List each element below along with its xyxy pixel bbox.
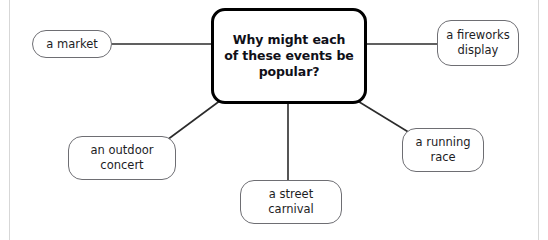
connector-central-to-running-race: [356, 100, 410, 133]
branch-node-street-carnival-label: a street carnival: [262, 187, 319, 217]
branch-node-fireworks[interactable]: a fireworks display: [437, 20, 519, 66]
branch-node-outdoor-concert[interactable]: an outdoor concert: [68, 136, 176, 180]
branch-node-market[interactable]: a market: [32, 30, 112, 58]
branch-node-market-label: a market: [40, 37, 104, 52]
connector-central-to-outdoor-concert: [167, 100, 221, 140]
branch-node-running-race-label: a running race: [409, 135, 476, 165]
central-node-question[interactable]: Why might each of these events be popula…: [211, 8, 367, 104]
branch-node-outdoor-concert-label: an outdoor concert: [85, 143, 160, 173]
branch-node-fireworks-label: a fireworks display: [440, 28, 515, 58]
central-node-label: Why might each of these events be popula…: [218, 32, 359, 80]
branch-node-running-race[interactable]: a running race: [402, 128, 484, 172]
diagram-canvas: Why might each of these events be popula…: [0, 0, 548, 240]
branch-node-street-carnival[interactable]: a street carnival: [240, 180, 342, 224]
